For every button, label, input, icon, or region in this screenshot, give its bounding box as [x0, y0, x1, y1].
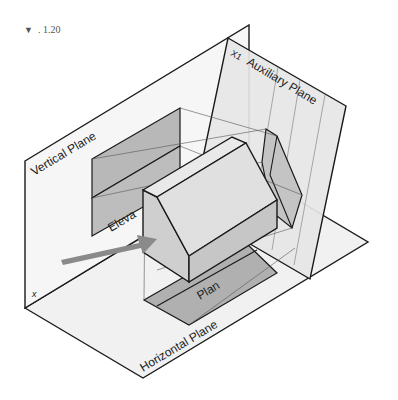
x-axis-label: x — [31, 289, 37, 299]
orthographic-projection-diagram: Vertical Plane X1 Auxiliary Plane Eleva … — [0, 0, 398, 400]
